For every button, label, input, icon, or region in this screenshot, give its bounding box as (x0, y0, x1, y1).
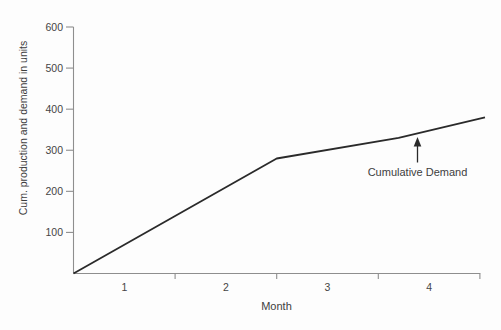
x-tick-label: 1 (121, 281, 127, 293)
y-tick-label: 100 (45, 226, 63, 238)
x-tick-label: 2 (223, 281, 229, 293)
x-tick-label: 4 (426, 281, 432, 293)
cumulative-demand-line (74, 117, 486, 273)
annotation-label: Cumulative Demand (355, 166, 480, 178)
annotation-arrow-head (414, 137, 422, 147)
x-axis-title: Month (246, 300, 307, 312)
y-tick-label: 500 (45, 62, 63, 74)
y-tick-label: 200 (45, 185, 63, 197)
y-tick-label: 300 (45, 144, 63, 156)
cumulative-demand-chart: Cum. production and demand in units 1002… (0, 0, 501, 330)
x-tick-label: 3 (325, 281, 331, 293)
annotation-arrow (414, 137, 422, 163)
chart-plot-area: 1002003004005006001234 (0, 0, 501, 330)
y-tick-label: 400 (45, 103, 63, 115)
y-tick-label: 600 (45, 21, 63, 33)
